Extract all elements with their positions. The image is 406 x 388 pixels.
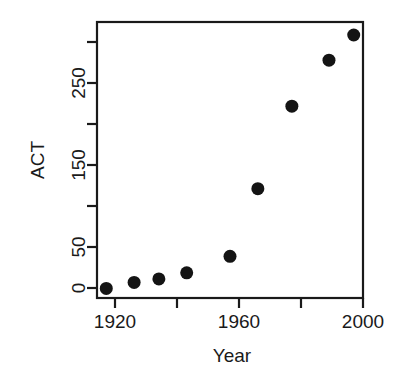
y-tick-label-250: 250 bbox=[68, 67, 89, 99]
y-tick-label-150: 150 bbox=[68, 149, 89, 181]
data-point bbox=[152, 272, 165, 285]
data-point bbox=[322, 54, 335, 67]
data-point bbox=[128, 276, 141, 289]
data-point bbox=[347, 29, 360, 42]
x-tick-group bbox=[115, 298, 363, 308]
x-tick-label-1920: 1920 bbox=[94, 311, 136, 332]
y-axis-title: ACT bbox=[27, 141, 48, 179]
plot-canvas: 0 50 150 250 ACT 1920 1960 2000 Year bbox=[0, 0, 406, 388]
data-point bbox=[251, 182, 264, 195]
y-tick-group bbox=[87, 42, 97, 288]
data-points-layer bbox=[100, 29, 360, 295]
x-tick-label-1960: 1960 bbox=[218, 311, 260, 332]
scatter-plot-figure: 0 50 150 250 ACT 1920 1960 2000 Year bbox=[0, 0, 406, 388]
y-tick-label-50: 50 bbox=[68, 236, 89, 257]
data-point bbox=[100, 282, 113, 295]
y-axis: 0 50 150 250 ACT bbox=[27, 42, 98, 293]
x-axis-title: Year bbox=[213, 345, 252, 366]
y-tick-label-0: 0 bbox=[68, 283, 89, 294]
data-point bbox=[180, 266, 193, 279]
data-point bbox=[285, 100, 298, 113]
data-point bbox=[224, 250, 237, 263]
x-tick-label-2000: 2000 bbox=[342, 311, 384, 332]
x-axis: 1920 1960 2000 Year bbox=[94, 298, 384, 366]
